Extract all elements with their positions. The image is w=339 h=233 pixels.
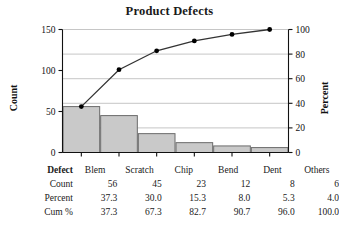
pareto-data-table: DefectBlemScratchChipBendDentOthersCount… [0,163,339,219]
table-cell: 5.3 [250,191,294,205]
table-row: DefectBlemScratchChipBendDentOthers [0,163,339,177]
table-column-header: Dent [250,163,294,177]
table-cell: 8 [250,177,294,191]
table-cell: 90.7 [206,205,250,219]
table-column-header: Blem [73,163,117,177]
table-column-header: Bend [206,163,250,177]
svg-text:0: 0 [51,148,56,158]
svg-text:150: 150 [41,25,56,35]
svg-text:100: 100 [41,66,56,76]
svg-text:60: 60 [296,74,306,84]
table-cell: 12 [206,177,250,191]
cumulative-markers [79,27,272,109]
table-row-label: Percent [0,191,73,205]
table-cell: 15.3 [162,191,206,205]
table-cell: 96.0 [250,205,294,219]
table-column-header: Scratch [117,163,161,177]
table-cell: 6 [295,177,339,191]
table-row-label: Cum % [0,205,73,219]
plot-area: 050100150020406080100 Count Percent [0,0,339,163]
table-cell: 8.0 [206,191,250,205]
table-cell: 23 [162,177,206,191]
table-cell: 4.0 [295,191,339,205]
bars-group [63,107,288,153]
table-row-label: Count [0,177,73,191]
pareto-chart: Product Defects 050100150020406080100 Co… [0,0,339,233]
table-cell: 37.3 [73,205,117,219]
svg-text:50: 50 [46,107,56,117]
table-column-header: Chip [162,163,206,177]
table-cell: 30.0 [117,191,161,205]
svg-text:0: 0 [296,148,301,158]
table-cell: 56 [73,177,117,191]
table-cell: 67.3 [117,205,161,219]
table-cell: 45 [117,177,161,191]
table-cell: 82.7 [162,205,206,219]
table-row-label: Defect [0,163,73,177]
svg-text:40: 40 [296,99,306,109]
svg-text:100: 100 [296,25,311,35]
table-row: Percent37.330.015.38.05.34.0 [0,191,339,205]
table-row: Cum %37.367.382.790.796.0100.0 [0,205,339,219]
svg-text:80: 80 [296,50,306,60]
table-column-header: Others [295,163,339,177]
table-cell: 100.0 [295,205,339,219]
cumulative-line [81,30,269,107]
svg-text:20: 20 [296,123,306,133]
table-row: Count5645231286 [0,177,339,191]
table-cell: 37.3 [73,191,117,205]
y2-axis-title-percent: Percent [319,81,330,114]
y-axis-title-count: Count [8,84,19,111]
